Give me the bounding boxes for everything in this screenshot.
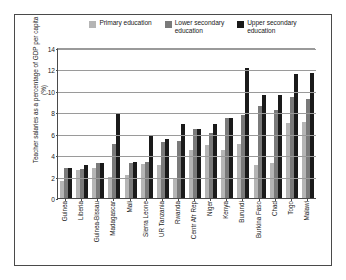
x-label-cell: Liberia (73, 201, 89, 259)
y-tick-mark (56, 178, 59, 179)
bar (165, 139, 169, 199)
bar-group (171, 49, 187, 199)
x-label-cell: Guinea (57, 201, 73, 259)
x-tick-label: Burkina Faso (255, 201, 262, 238)
x-tick-label: Liberia (78, 201, 85, 220)
y-tick-mark (56, 92, 59, 93)
y-tick-mark (56, 113, 59, 114)
bar (100, 163, 104, 199)
x-label-cell: Centr Afr Rep (186, 201, 202, 259)
x-label-cell: Niger (202, 201, 218, 259)
bar-group (235, 49, 251, 199)
x-tick-label: Kenya (223, 201, 230, 219)
y-tick-label: 2 (51, 174, 55, 181)
x-tick-label: Sierra Leone (142, 201, 149, 237)
x-label-cell: Sierra Leone (138, 201, 154, 259)
bar-group (203, 49, 219, 199)
gridline (58, 135, 316, 136)
x-tick-label: Rwanda (175, 201, 182, 224)
bar-group (268, 49, 284, 199)
x-tick-label: Guinea-Bissau (94, 201, 101, 242)
bar (245, 68, 249, 199)
bar-group (219, 49, 235, 199)
x-axis-labels: GuineaLiberiaGuinea-BissauMadagascarMali… (57, 201, 315, 259)
y-tick-label: 12 (48, 67, 55, 74)
bar (262, 95, 266, 199)
x-label-cell: Chad (267, 201, 283, 259)
y-tick-label: 4 (51, 153, 55, 160)
bar (84, 165, 88, 199)
x-tick-label: Mali (126, 201, 133, 213)
gridline (58, 156, 316, 157)
bar (278, 95, 282, 199)
bar (149, 136, 153, 199)
bar (68, 168, 72, 199)
y-tick-mark (56, 156, 59, 157)
plot-wrapper: Teacher salaries as a percentage of GDP … (15, 15, 333, 267)
bar-group (284, 49, 300, 199)
gridline (58, 92, 316, 93)
x-label-cell: UR Tanzania (154, 201, 170, 259)
y-tick-label: 14 (48, 46, 55, 53)
bar-group (187, 49, 203, 199)
x-tick-label: Togo (288, 201, 295, 215)
y-tick-mark (56, 49, 59, 50)
bar-group (90, 49, 106, 199)
x-tick-label: Niger (207, 201, 214, 216)
y-tick-mark (56, 199, 59, 200)
gridline (58, 113, 316, 114)
bar-groups (58, 49, 316, 199)
x-tick-label: Burundi (239, 201, 246, 223)
x-tick-label: Madagascar (110, 201, 117, 236)
gridline (58, 178, 316, 179)
bar-group (58, 49, 74, 199)
x-tick-label: Guinea (62, 201, 69, 221)
y-tick-mark (56, 70, 59, 71)
x-tick-label: Malawi (304, 201, 311, 221)
y-tick-label: 10 (48, 88, 55, 95)
y-tick-mark (56, 135, 59, 136)
gridline (58, 49, 316, 50)
bar-group (300, 49, 316, 199)
x-label-cell: Rwanda (170, 201, 186, 259)
y-tick-label: 0 (51, 196, 55, 203)
x-label-cell: Togo (283, 201, 299, 259)
y-tick-label: 6 (51, 131, 55, 138)
x-tick-label: Chad (271, 201, 278, 216)
gridline (58, 70, 316, 71)
bar (197, 129, 201, 199)
x-label-cell: Malawi (299, 201, 315, 259)
bar (133, 162, 137, 200)
y-tick-label: 8 (51, 110, 55, 117)
bar-group (252, 49, 268, 199)
x-label-cell: Mali (122, 201, 138, 259)
x-label-cell: Burkina Faso (251, 201, 267, 259)
chart-figure: Primary educationLower secondary educati… (14, 14, 332, 266)
x-label-cell: Burundi (234, 201, 250, 259)
bar-group (155, 49, 171, 199)
x-label-cell: Guinea-Bissau (89, 201, 105, 259)
bar (229, 118, 233, 199)
plot-area: 02468101214 (57, 48, 315, 199)
x-tick-label: UR Tanzania (159, 201, 166, 237)
x-label-cell: Kenya (218, 201, 234, 259)
bar-group (74, 49, 90, 199)
x-tick-label: Centr Afr Rep (191, 201, 198, 239)
x-label-cell: Madagascar (105, 201, 121, 259)
bar-group (139, 49, 155, 199)
bar-group (106, 49, 122, 199)
bar-group (123, 49, 139, 199)
